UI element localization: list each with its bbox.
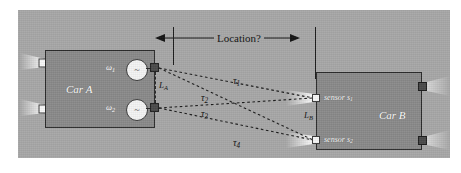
- delay-label-tau-1: τ1: [233, 75, 240, 88]
- oscillator-2-icon: ~: [126, 99, 148, 121]
- sensor-2-label: sensor s2: [324, 135, 353, 144]
- car-b-tail-connector-1: [418, 82, 427, 91]
- taillight-beam-lower: [427, 130, 450, 150]
- scene-plate: Car A ω1 ω2 ~ ~ LA Car B uP sensor s1 se…: [18, 10, 450, 158]
- transmit-antenna-1: [150, 63, 159, 72]
- oscillator-1-icon: ~: [126, 59, 148, 81]
- location-question-label: Location?: [214, 32, 264, 44]
- car-a-baseline-label: LA: [158, 80, 169, 91]
- delay-label-tau-3: τ3: [201, 108, 208, 121]
- oscillator-2-tag: ω2: [106, 102, 115, 113]
- car-b-tail-connector-2: [418, 136, 427, 145]
- delay-label-tau-2: τ2: [201, 92, 208, 105]
- sensor-1-label: sensor s1: [324, 93, 353, 102]
- car-b-baseline-dimension-line: [316, 102, 317, 136]
- taillight-beam-upper: [427, 76, 450, 96]
- sensor-2-icon: [312, 136, 320, 144]
- car-b-label: Car B: [379, 109, 406, 121]
- location-reference-line-right: [315, 27, 316, 79]
- sensor-1-icon: [312, 94, 320, 102]
- location-reference-line-left: [173, 27, 174, 65]
- car-a-body: Car A ω1 ω2 ~ ~: [45, 50, 155, 128]
- car-a-baseline-dimension-line: [155, 72, 156, 103]
- transmit-antenna-2: [150, 103, 159, 112]
- delay-label-tau-4: τ4: [233, 137, 240, 150]
- car-b-baseline-label: LB: [303, 110, 314, 121]
- sensor-beam-lower: [286, 132, 314, 148]
- car-a-label: Car A: [66, 83, 92, 95]
- localization-figure: Car A ω1 ω2 ~ ~ LA Car B uP sensor s1 se…: [0, 0, 461, 173]
- oscillator-1-tag: ω1: [106, 62, 115, 73]
